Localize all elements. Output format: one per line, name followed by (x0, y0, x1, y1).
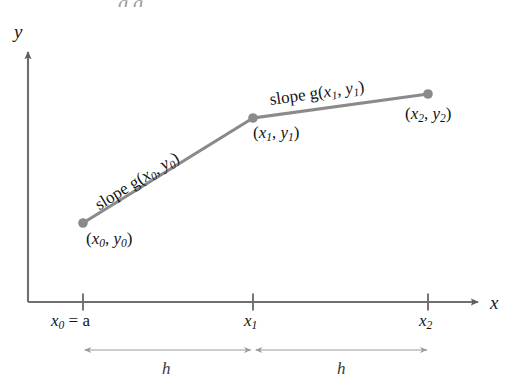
slope-label-segment-1-prefix: slope (268, 85, 310, 109)
tick-label-x1-base: x (244, 311, 252, 330)
euler-polyline-figure: g g y x (0, 0, 513, 391)
tick-label-x1-subscript: 1 (252, 319, 258, 332)
y-axis-label: y (14, 22, 22, 41)
dimension-label-h2: h (337, 360, 346, 377)
data-point-p1 (248, 113, 258, 123)
tick-label-x2-subscript: 2 (427, 319, 433, 332)
euler-polyline (83, 94, 428, 223)
data-point-p0 (78, 218, 88, 228)
point-label-p0: (x0, y0) (86, 230, 133, 250)
tick-label-x0-base: x (51, 311, 59, 330)
tick-label-x2-base: x (419, 311, 427, 330)
tick-label-x0-suffix: = a (64, 311, 90, 330)
x-axis-label: x (490, 293, 498, 312)
data-point-p2 (423, 89, 433, 99)
point-label-p1: (x1, y1) (253, 124, 300, 144)
point-label-p2-y: y (433, 104, 441, 123)
point-label-p1-y: y (281, 123, 289, 142)
tick-label-x1: x1 (244, 312, 257, 332)
dimension-label-h1: h (162, 360, 171, 377)
point-label-p2: (x2, y2) (405, 105, 452, 125)
point-label-p0-y: y (114, 229, 122, 248)
tick-label-x0: x0 = a (51, 312, 90, 332)
tick-label-x2: x2 (419, 312, 432, 332)
figure-canvas (0, 0, 513, 391)
